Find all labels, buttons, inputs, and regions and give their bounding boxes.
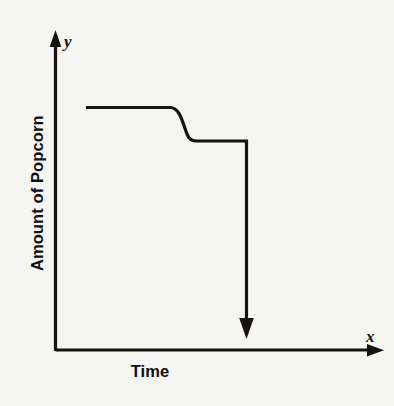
x-axis-variable-label: x: [366, 328, 375, 345]
y-axis-title: Amount of Popcorn: [29, 98, 46, 288]
popcorn-vs-time-graph: y x Amount of Popcorn Time: [0, 0, 394, 406]
x-axis-title: Time: [0, 363, 300, 380]
y-axis-arrowhead-icon: [50, 30, 62, 47]
curve-drop-arrowhead-icon: [239, 318, 254, 339]
graph-canvas: [0, 0, 394, 406]
popcorn-amount-curve: [86, 108, 247, 323]
y-axis-variable-label: y: [64, 33, 72, 50]
